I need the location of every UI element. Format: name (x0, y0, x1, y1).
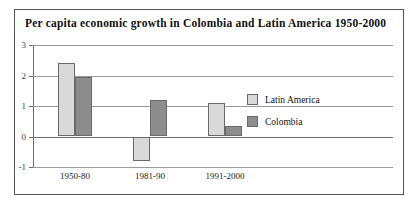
y-tick-0 (29, 137, 33, 138)
x-tick-label-1950-80: 1950-80 (60, 171, 90, 181)
gridline--1 (33, 167, 393, 168)
bar-latin-america-1981-90 (133, 137, 150, 161)
legend-swatch-colombia (247, 116, 258, 127)
legend-label-colombia: Colombia (265, 117, 302, 127)
gridline-0 (33, 137, 393, 138)
bar-latin-america-1991-2000 (208, 103, 225, 137)
y-tick-1 (29, 106, 33, 107)
y-tick-label-3: 3 (22, 40, 27, 50)
chart-legend: Latin AmericaColombia (247, 94, 320, 138)
y-tick-2 (29, 76, 33, 77)
chart-title: Per capita economic growth in Colombia a… (25, 17, 386, 29)
bar-colombia-1950-80 (75, 77, 92, 136)
legend-item-colombia: Colombia (247, 116, 320, 127)
chart-figure: Per capita economic growth in Colombia a… (14, 9, 404, 195)
y-tick-label-1: 1 (22, 101, 27, 111)
bar-latin-america-1950-80 (58, 63, 75, 136)
y-tick-label--1: -1 (19, 162, 27, 172)
bar-colombia-1981-90 (150, 100, 167, 137)
gridline-3 (33, 45, 393, 46)
y-tick-label-0: 0 (22, 132, 27, 142)
x-tick-label-1981-90: 1981-90 (135, 171, 165, 181)
plot-area: 3210-1 1950-801981-901991-2000 (33, 45, 393, 167)
y-tick--1 (29, 167, 33, 168)
x-tick-label-1991-2000: 1991-2000 (206, 171, 245, 181)
legend-label-latin-america: Latin America (265, 95, 320, 105)
y-tick-3 (29, 45, 33, 46)
bar-colombia-1991-2000 (225, 126, 242, 137)
legend-item-latin-america: Latin America (247, 94, 320, 105)
legend-swatch-latin-america (247, 94, 258, 105)
y-tick-label-2: 2 (22, 71, 27, 81)
